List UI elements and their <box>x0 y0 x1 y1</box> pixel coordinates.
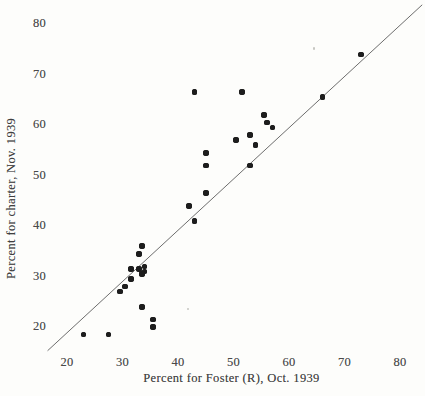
data-point <box>261 112 267 118</box>
data-point <box>150 324 156 330</box>
data-point <box>117 289 123 295</box>
y-tick-label: 80 <box>18 16 46 31</box>
data-point <box>203 190 209 196</box>
data-point <box>150 317 156 323</box>
identity-line <box>48 5 423 351</box>
data-point <box>233 137 239 143</box>
x-tick-label: 30 <box>108 355 138 370</box>
y-axis-title: Percent for charter, Nov. 1939 <box>4 118 19 279</box>
print-speck <box>313 47 316 50</box>
data-point <box>128 276 134 282</box>
data-point <box>203 150 209 156</box>
y-tick-label: 30 <box>18 269 46 284</box>
data-point <box>320 94 326 100</box>
y-tick-label: 70 <box>18 67 46 82</box>
x-tick-label: 70 <box>330 355 360 370</box>
y-tick-label: 50 <box>18 168 46 183</box>
data-point <box>247 132 253 138</box>
y-tick-label: 60 <box>18 117 46 132</box>
data-point <box>136 251 142 257</box>
data-point <box>239 89 245 95</box>
y-tick-label: 40 <box>18 218 46 233</box>
data-point <box>264 120 270 126</box>
data-point <box>128 266 134 272</box>
x-tick-label: 20 <box>52 355 82 370</box>
identity-line-layer <box>0 0 425 396</box>
x-tick-label: 60 <box>274 355 304 370</box>
data-point <box>139 304 145 310</box>
data-point <box>139 271 145 277</box>
data-point <box>139 243 145 249</box>
x-tick-label: 40 <box>163 355 193 370</box>
data-point <box>358 52 364 58</box>
y-tick-label: 20 <box>18 319 46 334</box>
scatter-plot-figure: 20304050607080 20304050607080 Percent fo… <box>0 0 425 396</box>
x-tick-label: 80 <box>385 355 415 370</box>
x-tick-label: 50 <box>219 355 249 370</box>
data-point <box>203 163 209 169</box>
data-point <box>247 163 253 169</box>
data-point <box>186 203 192 209</box>
x-axis-title: Percent for Foster (R), Oct. 1939 <box>0 371 425 386</box>
